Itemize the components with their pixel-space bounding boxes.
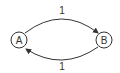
node-b: B <box>96 32 112 48</box>
edge-label-b-to-a: 1 <box>59 61 65 72</box>
edge-a-to-b <box>25 19 98 33</box>
edge-b-to-a <box>26 47 98 60</box>
edge-label-a-to-b: 1 <box>59 5 65 16</box>
diagram-canvas: 1 1 A B <box>0 0 120 73</box>
graph-svg: 1 1 A B <box>0 0 120 73</box>
node-b-label: B <box>101 35 108 46</box>
node-a: A <box>11 32 27 48</box>
node-a-label: A <box>16 35 23 46</box>
